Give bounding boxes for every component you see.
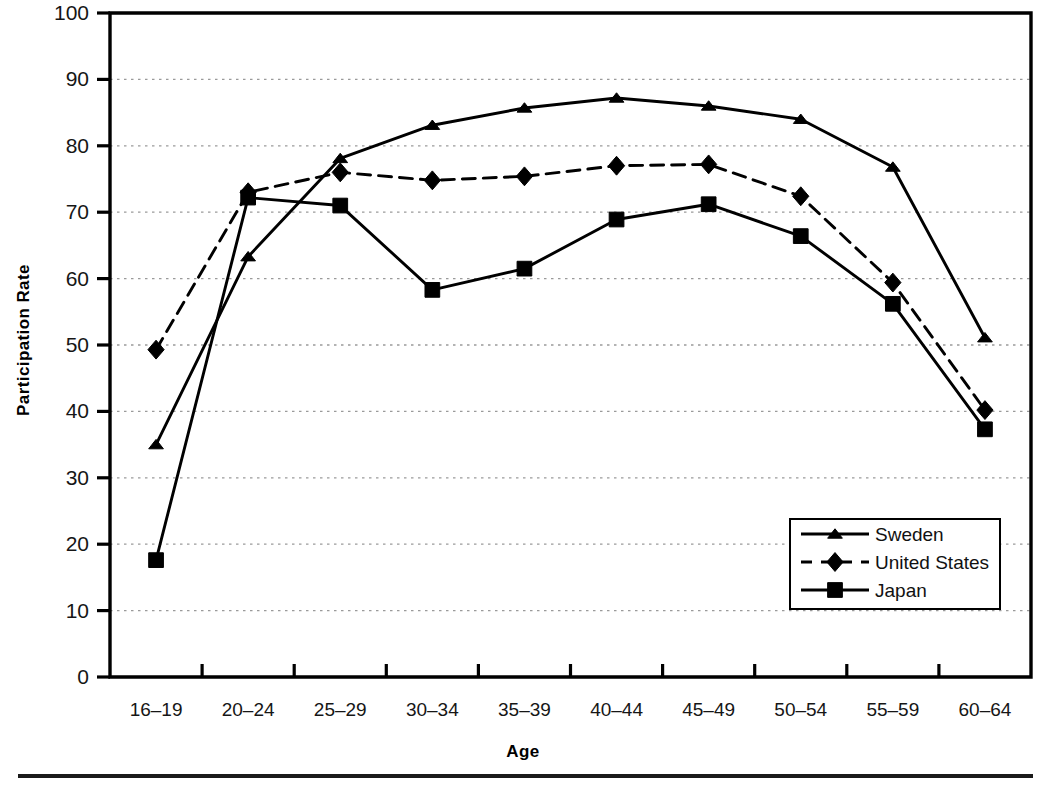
legend-label: Sweden (875, 525, 944, 544)
plot-canvas (0, 0, 1046, 785)
legend-item-sweden[interactable]: Sweden (791, 520, 999, 548)
series-japan (149, 190, 993, 567)
legend-square-icon (799, 577, 871, 603)
data-point-square (609, 212, 624, 227)
series-sweden (149, 93, 993, 449)
data-point-triangle (978, 332, 993, 341)
legend-marker (827, 553, 843, 572)
series-layer (148, 93, 993, 568)
y-tick-marks (97, 13, 110, 677)
legend-triangle-icon (799, 521, 871, 547)
legend-marker (828, 583, 843, 598)
data-point-diamond (424, 171, 440, 190)
legend-label: Japan (875, 581, 927, 600)
data-point-diamond (701, 155, 717, 174)
data-point-diamond (516, 167, 532, 186)
data-point-square (978, 422, 993, 437)
series-united-states (148, 155, 993, 420)
data-point-diamond (608, 156, 624, 175)
data-point-square (241, 190, 256, 205)
x-tick-marks (202, 664, 939, 677)
data-point-square (793, 229, 808, 244)
series-line (156, 98, 985, 445)
data-point-triangle (149, 439, 164, 448)
legend-label: United States (875, 553, 989, 572)
data-point-square (517, 261, 532, 276)
data-point-square (149, 553, 164, 568)
data-point-square (425, 283, 440, 298)
chart-legend: SwedenUnited StatesJapan (789, 518, 1001, 610)
data-point-square (333, 198, 348, 213)
legend-item-united-states[interactable]: United States (791, 548, 999, 576)
data-point-diamond (148, 340, 164, 359)
legend-diamond-icon (799, 549, 871, 575)
page-rule (18, 774, 1033, 778)
legend-item-japan[interactable]: Japan (791, 576, 999, 604)
data-point-diamond (793, 187, 809, 206)
chart-figure: Participation Rate Age 01020304050607080… (0, 0, 1046, 785)
data-point-square (885, 296, 900, 311)
data-point-square (701, 197, 716, 212)
